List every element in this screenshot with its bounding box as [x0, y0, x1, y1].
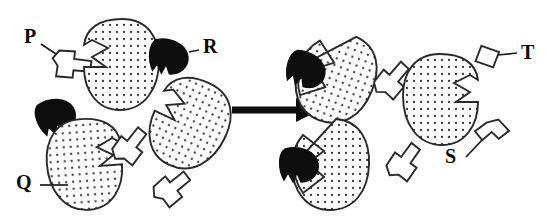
protein-ligand-complex-top [272, 18, 387, 134]
stippled-protein-q [44, 116, 125, 212]
protein-ligand-complex-bottom [280, 119, 369, 210]
stippled-protein-top [84, 19, 159, 110]
leader-line-t [498, 53, 517, 55]
diagram-svg [0, 0, 555, 224]
leader-line-r [189, 50, 199, 52]
label-r: R [203, 36, 217, 56]
label-p: P [24, 26, 36, 46]
reaction-diagram-canvas: P R Q T S [0, 0, 555, 224]
leader-line-s [466, 139, 483, 157]
stippled-protein-right-free [403, 54, 478, 145]
label-t: T [521, 42, 534, 62]
white-angular-fragment-right-2 [381, 141, 430, 187]
white-angular-fragment-left-2 [150, 170, 196, 210]
label-s: S [445, 146, 456, 166]
label-q: Q [16, 172, 32, 192]
white-angular-fragment-t [472, 42, 502, 72]
